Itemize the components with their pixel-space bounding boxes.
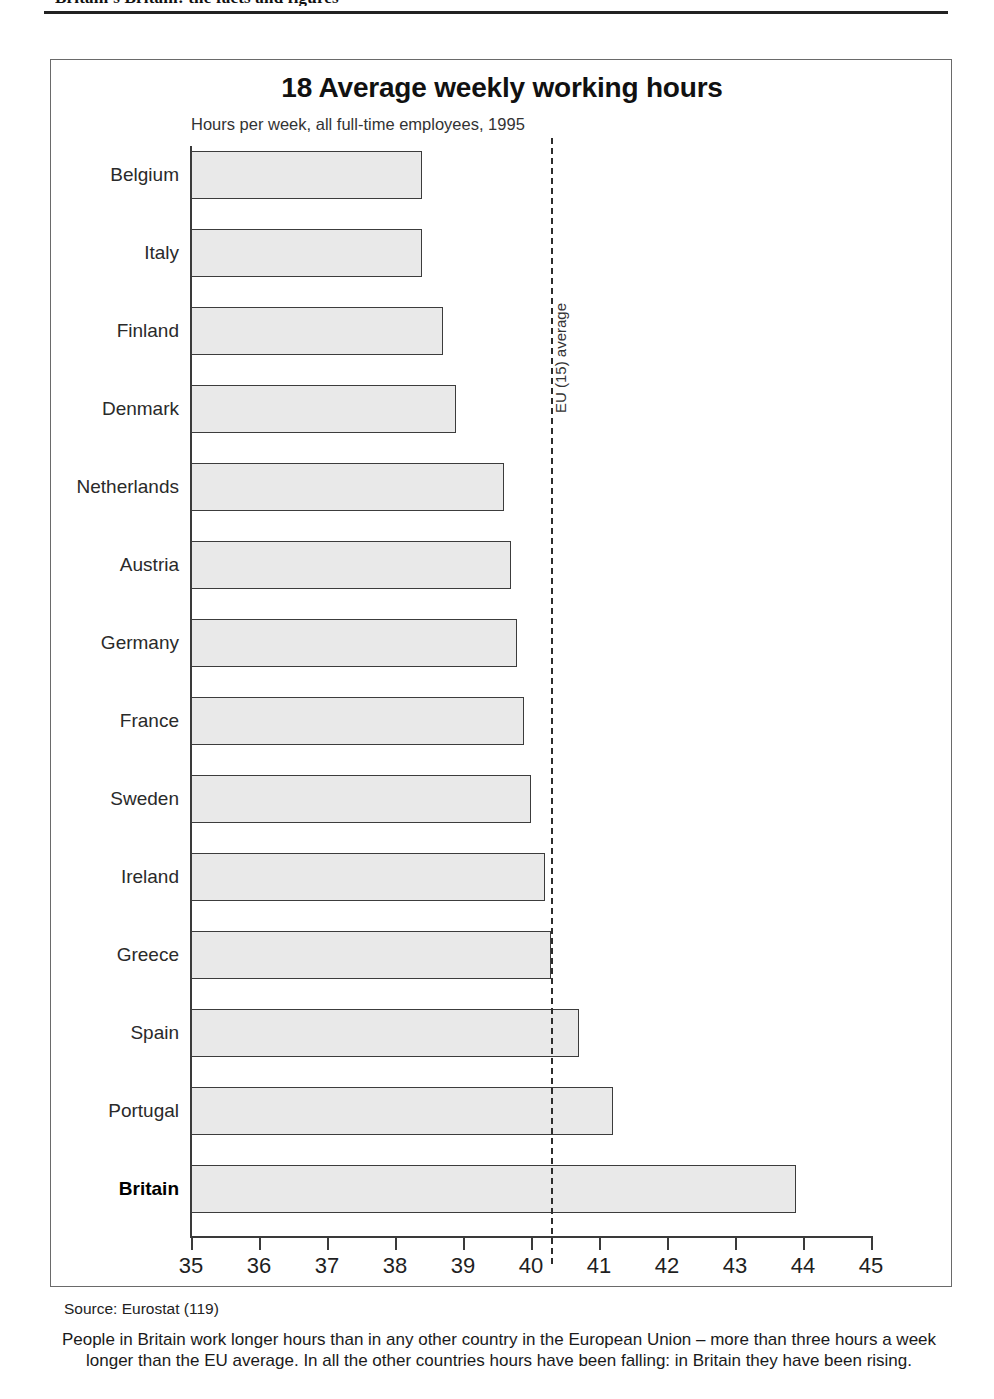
bar-row: Finland — [191, 302, 871, 380]
x-axis-tick-label: 35 — [161, 1253, 221, 1279]
x-axis-tick — [395, 1236, 397, 1250]
header-rule — [44, 11, 948, 14]
bar-category-label: Greece — [117, 931, 179, 979]
x-axis-tick-label: 39 — [433, 1253, 493, 1279]
bar — [191, 619, 517, 667]
bar — [191, 151, 422, 199]
x-axis-tick — [871, 1236, 873, 1250]
x-axis-tick-label: 36 — [229, 1253, 289, 1279]
bar-row: Britain — [191, 1160, 871, 1238]
bar-category-label: Sweden — [110, 775, 179, 823]
x-axis-tick — [463, 1236, 465, 1250]
bar-row: Netherlands — [191, 458, 871, 536]
bar-category-label: Belgium — [110, 151, 179, 199]
bar-row: Belgium — [191, 146, 871, 224]
x-axis-tick — [531, 1236, 533, 1250]
bar — [191, 931, 551, 979]
bar-category-label: France — [120, 697, 179, 745]
x-axis-tick — [735, 1236, 737, 1250]
chart-container: 18 Average weekly working hours Hours pe… — [50, 59, 952, 1287]
bar — [191, 697, 524, 745]
bar-row: Germany — [191, 614, 871, 692]
source-note: Source: Eurostat (119) — [64, 1300, 219, 1318]
x-axis-tick — [259, 1236, 261, 1250]
x-axis-tick-label: 43 — [705, 1253, 765, 1279]
bar-row: Denmark — [191, 380, 871, 458]
bar-category-label: Britain — [119, 1165, 179, 1213]
chart-subtitle: Hours per week, all full-time employees,… — [191, 115, 525, 134]
bar — [191, 1165, 796, 1213]
chart-caption: People in Britain work longer hours than… — [60, 1329, 938, 1372]
bar-row: Sweden — [191, 770, 871, 848]
bar-category-label: Portugal — [108, 1087, 179, 1135]
bar — [191, 775, 531, 823]
bar-category-label: Spain — [130, 1009, 179, 1057]
x-axis-tick-label: 41 — [569, 1253, 629, 1279]
bar-category-label: Denmark — [102, 385, 179, 433]
running-head: Britain's Britain: the facts and figures — [55, 0, 755, 6]
bar — [191, 385, 456, 433]
x-axis-tick — [803, 1236, 805, 1250]
plot-area: BelgiumItalyFinlandDenmarkNetherlandsAus… — [191, 146, 871, 1236]
bar-row: Italy — [191, 224, 871, 302]
bar-row: Austria — [191, 536, 871, 614]
bar-row: Ireland — [191, 848, 871, 926]
x-axis-tick — [667, 1236, 669, 1250]
chart-title: 18 Average weekly working hours — [51, 72, 953, 104]
bar — [191, 541, 511, 589]
x-axis-tick-label: 45 — [841, 1253, 901, 1279]
bar-category-label: Germany — [101, 619, 179, 667]
x-axis-tick-label: 37 — [297, 1253, 357, 1279]
bar-row: Greece — [191, 926, 871, 1004]
x-axis: 3536373839404142434445 — [191, 1236, 871, 1296]
x-axis-tick-label: 42 — [637, 1253, 697, 1279]
bar-row: France — [191, 692, 871, 770]
bar — [191, 1009, 579, 1057]
bar-category-label: Netherlands — [77, 463, 179, 511]
bar — [191, 307, 443, 355]
bar-category-label: Austria — [120, 541, 179, 589]
bar — [191, 853, 545, 901]
x-axis-tick-label: 44 — [773, 1253, 833, 1279]
bar-category-label: Italy — [144, 229, 179, 277]
bar-category-label: Finland — [117, 307, 179, 355]
x-axis-tick — [191, 1236, 193, 1250]
bar-row: Portugal — [191, 1082, 871, 1160]
bar-row: Spain — [191, 1004, 871, 1082]
bar — [191, 463, 504, 511]
bar — [191, 1087, 613, 1135]
bar-category-label: Ireland — [121, 853, 179, 901]
x-axis-tick-label: 38 — [365, 1253, 425, 1279]
bar — [191, 229, 422, 277]
x-axis-tick-label: 40 — [501, 1253, 561, 1279]
x-axis-tick — [327, 1236, 329, 1250]
eu-average-label: EU (15) average — [552, 303, 569, 413]
x-axis-tick — [599, 1236, 601, 1250]
